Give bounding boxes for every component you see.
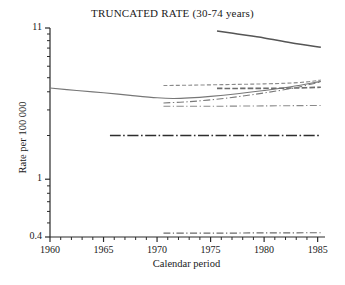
x-tick-label: 1960 xyxy=(28,244,72,255)
x-tick-label: 1980 xyxy=(242,244,286,255)
x-axis-title: Calendar period xyxy=(50,258,323,269)
x-tick-label: 1975 xyxy=(189,244,233,255)
series-line xyxy=(50,81,321,98)
x-ticks xyxy=(50,237,318,242)
series-line xyxy=(217,87,321,88)
y-ticks xyxy=(45,28,50,237)
y-tick-label: 1 xyxy=(8,172,42,183)
series-line xyxy=(163,82,320,103)
x-tick-label: 1970 xyxy=(135,244,179,255)
series-line xyxy=(217,31,321,47)
chart-figure: TRUNCATED RATE (30-74 years) Calendar pe… xyxy=(0,0,345,285)
series-line xyxy=(163,80,320,85)
y-axis-title: Rate per 100 000 xyxy=(17,68,28,208)
x-tick-label: 1965 xyxy=(82,244,126,255)
axis-lines xyxy=(50,28,325,237)
series-group xyxy=(50,31,321,233)
series-line xyxy=(163,105,320,106)
y-tick-label: 0.4 xyxy=(8,230,42,241)
plot-canvas xyxy=(0,0,345,285)
x-tick-label: 1985 xyxy=(296,244,340,255)
y-tick-label: 11 xyxy=(8,21,42,32)
